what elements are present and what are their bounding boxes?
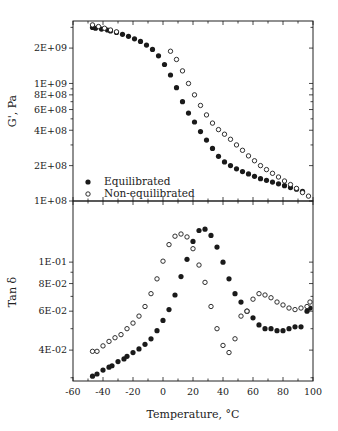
point-non-equilibrated [149, 291, 153, 295]
point-equilibrated [100, 367, 105, 372]
point-non-equilibrated [239, 314, 243, 318]
point-equilibrated [138, 39, 143, 44]
y-tick-label: 6E-02 [39, 305, 67, 316]
point-non-equilibrated [107, 339, 111, 343]
y-tick-label: 1E+08 [34, 195, 67, 206]
point-non-equilibrated [204, 113, 208, 117]
x-tick-label: 60 [247, 386, 259, 397]
point-equilibrated [174, 85, 179, 90]
point-non-equilibrated [305, 304, 309, 308]
point-non-equilibrated [252, 159, 256, 163]
point-non-equilibrated [264, 167, 268, 171]
point-equilibrated [256, 322, 261, 327]
point-equilibrated [178, 274, 183, 279]
legend-label-equilibrated: Equilibrated [104, 175, 171, 187]
y-tick-label: 6E+08 [34, 104, 67, 115]
point-equilibrated [238, 299, 243, 304]
x-tick-label: -20 [125, 386, 140, 397]
point-non-equilibrated [173, 234, 177, 238]
point-equilibrated [208, 233, 213, 238]
point-equilibrated [94, 371, 99, 376]
point-non-equilibrated [131, 321, 135, 325]
point-non-equilibrated [281, 303, 285, 307]
point-equilibrated [166, 307, 171, 312]
upper-y-axis-title: G', Pa [6, 94, 19, 127]
point-equilibrated [180, 99, 185, 104]
point-non-equilibrated [294, 186, 298, 190]
point-non-equilibrated [300, 190, 304, 194]
point-equilibrated [270, 179, 275, 184]
point-equilibrated [148, 336, 153, 341]
point-non-equilibrated [192, 93, 196, 97]
y-tick-label: 1E+09 [34, 78, 67, 89]
point-non-equilibrated [114, 30, 118, 34]
point-non-equilibrated [119, 332, 123, 336]
y-tick-label: 1E-01 [39, 256, 67, 267]
point-non-equilibrated [180, 69, 184, 73]
x-tick-label: 40 [217, 386, 229, 397]
point-non-equilibrated [186, 81, 190, 85]
point-equilibrated [190, 239, 195, 244]
legend-filled-marker-icon [85, 179, 90, 184]
point-non-equilibrated [246, 154, 250, 158]
point-equilibrated [234, 166, 239, 171]
point-non-equilibrated [108, 28, 112, 32]
point-non-equilibrated [209, 304, 213, 308]
lower-plot-frame [73, 201, 313, 381]
point-equilibrated [144, 43, 149, 48]
point-equilibrated [220, 260, 225, 265]
point-equilibrated [292, 324, 297, 329]
point-non-equilibrated [258, 163, 262, 167]
point-non-equilibrated [240, 148, 244, 152]
y-tick-label: 4E+08 [34, 125, 67, 136]
x-tick-label: 80 [277, 386, 289, 397]
point-equilibrated [142, 342, 147, 347]
point-non-equilibrated [293, 307, 297, 311]
point-non-equilibrated [228, 137, 232, 141]
point-non-equilibrated [222, 132, 226, 136]
point-non-equilibrated [221, 343, 225, 347]
point-non-equilibrated [155, 277, 159, 281]
point-non-equilibrated [282, 179, 286, 183]
y-tick-label: 4E-02 [39, 344, 67, 355]
point-non-equilibrated [197, 263, 201, 267]
point-equilibrated [282, 183, 287, 188]
x-tick-label: 20 [187, 386, 199, 397]
point-equilibrated [150, 47, 155, 52]
point-non-equilibrated [257, 291, 261, 295]
point-equilibrated [126, 34, 131, 39]
point-non-equilibrated [227, 350, 231, 354]
point-non-equilibrated [275, 300, 279, 304]
y-tick-label: 2E+08 [34, 160, 67, 171]
point-non-equilibrated [270, 171, 274, 175]
point-equilibrated [109, 363, 114, 368]
point-non-equilibrated [306, 194, 310, 198]
point-non-equilibrated [167, 242, 171, 246]
point-non-equilibrated [113, 336, 117, 340]
point-non-equilibrated [179, 232, 183, 236]
point-equilibrated [252, 174, 257, 179]
point-equilibrated [216, 154, 221, 159]
point-non-equilibrated [191, 247, 195, 251]
point-non-equilibrated [90, 349, 94, 353]
point-non-equilibrated [101, 344, 105, 348]
dma-chart: -60-40-200204060801002E+091E+098E+086E+0… [0, 0, 338, 431]
x-tick-label: 0 [160, 386, 166, 397]
point-equilibrated [162, 62, 167, 67]
point-equilibrated [198, 129, 203, 134]
point-non-equilibrated [95, 349, 99, 353]
point-non-equilibrated [251, 297, 255, 301]
point-equilibrated [132, 36, 137, 41]
point-non-equilibrated [288, 182, 292, 186]
point-non-equilibrated [276, 175, 280, 179]
point-equilibrated [276, 181, 281, 186]
point-equilibrated [202, 227, 207, 232]
point-equilibrated [264, 178, 269, 183]
point-non-equilibrated [168, 49, 172, 53]
point-equilibrated [168, 72, 173, 77]
point-non-equilibrated [198, 103, 202, 107]
point-non-equilibrated [308, 300, 312, 304]
point-equilibrated [298, 324, 303, 329]
point-equilibrated [280, 328, 285, 333]
upper-series-points [90, 23, 311, 199]
